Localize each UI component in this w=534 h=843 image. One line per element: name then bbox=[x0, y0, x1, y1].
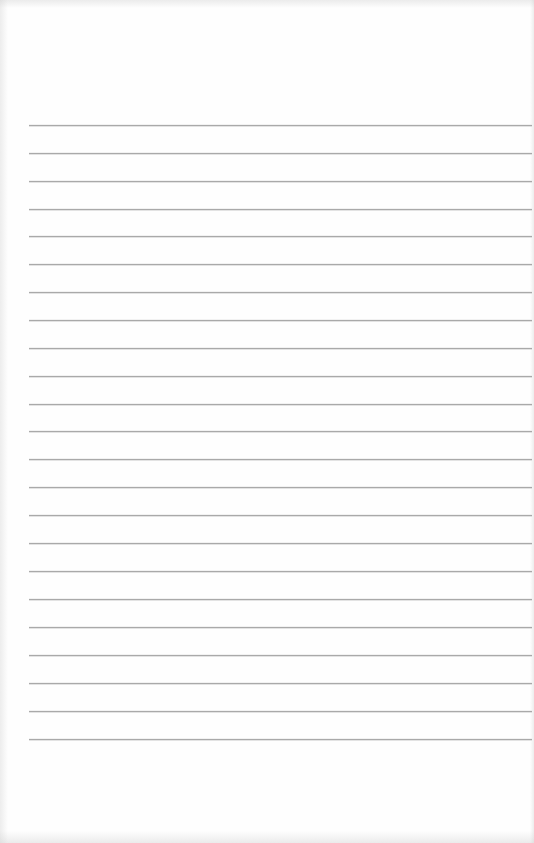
ruled-line bbox=[29, 292, 532, 293]
paper-bottom-edge bbox=[0, 831, 534, 843]
ruled-line bbox=[29, 627, 532, 628]
ruled-line bbox=[29, 209, 532, 210]
ruled-line bbox=[29, 431, 532, 432]
ruled-line bbox=[29, 515, 532, 516]
ruled-line bbox=[29, 376, 532, 377]
ruled-line bbox=[29, 459, 532, 460]
paper-right-edge bbox=[530, 0, 534, 843]
paper-top-edge bbox=[0, 0, 534, 8]
ruled-line bbox=[29, 543, 532, 544]
ruled-line bbox=[29, 711, 532, 712]
ruled-line bbox=[29, 153, 532, 154]
ruled-line bbox=[29, 739, 532, 740]
ruled-line bbox=[29, 236, 532, 237]
ruled-line bbox=[29, 487, 532, 488]
ruled-line bbox=[29, 125, 532, 126]
ruled-line bbox=[29, 571, 532, 572]
ruled-line bbox=[29, 404, 532, 405]
ruled-line bbox=[29, 655, 532, 656]
ruled-line bbox=[29, 181, 532, 182]
ruled-line bbox=[29, 348, 532, 349]
ruled-line bbox=[29, 264, 532, 265]
ruled-line bbox=[29, 683, 532, 684]
paper-left-edge bbox=[0, 0, 8, 843]
lined-paper-sheet bbox=[0, 0, 534, 843]
ruled-line bbox=[29, 320, 532, 321]
ruled-line bbox=[29, 599, 532, 600]
